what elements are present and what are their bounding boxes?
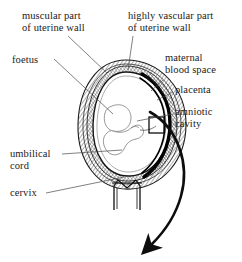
label-muscular-part: muscular part of uterine wall xyxy=(22,10,85,33)
label-cervix: cervix xyxy=(10,187,37,199)
label-maternal-blood-space: maternal blood space xyxy=(165,52,216,75)
label-amniotic-cavity: amniotic cavity xyxy=(175,106,213,129)
label-highly-vascular-part: highly vascular part of uterine wall xyxy=(128,10,213,33)
label-umbilical-cord: umbilical cord xyxy=(10,148,51,171)
uterus-cross-section-figure xyxy=(0,0,242,262)
anatomical-diagram: muscular part of uterine wall highly vas… xyxy=(0,0,242,262)
leader-muscular-part xyxy=(68,36,107,73)
label-foetus: foetus xyxy=(12,54,38,66)
label-placenta: placenta xyxy=(175,84,211,96)
